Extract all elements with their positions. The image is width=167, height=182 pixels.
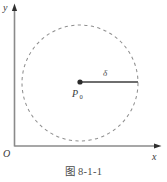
x-axis-label: x [151,151,157,162]
figure-caption: 图 8-1-1 [0,163,167,178]
origin-label: O [3,148,10,159]
center-point-dot [77,79,82,84]
y-axis-label: y [2,2,8,13]
figure-container: y x O δ P 0 图 8-1-1 [0,0,167,182]
center-point-label: P [71,88,78,99]
center-point-subscript: 0 [80,93,83,100]
radius-label: δ [103,68,108,78]
y-axis-arrow-icon [12,4,17,12]
x-axis-arrow-icon [154,143,162,148]
neighborhood-diagram: y x O δ P 0 [0,0,167,182]
